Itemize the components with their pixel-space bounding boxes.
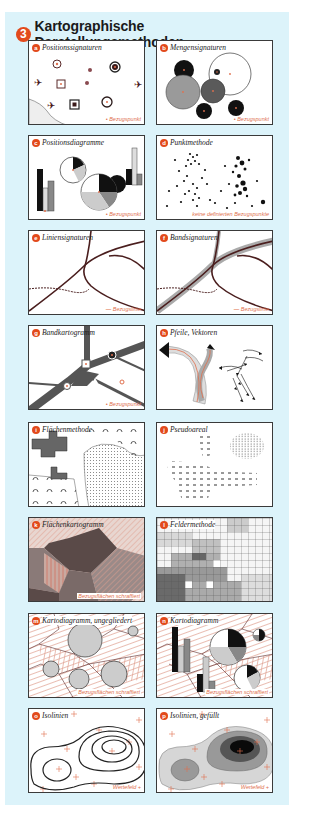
panel-j-title: Pseudoareal — [170, 425, 208, 434]
panel-i-title: Flächenmethode — [42, 425, 92, 434]
panel-j-label: jPseudoareal — [160, 425, 208, 434]
panel-j-badge: j — [160, 426, 168, 434]
panel-l-feldermethode: lFeldermethode — [156, 517, 273, 602]
svg-text:✈: ✈ — [47, 100, 55, 111]
pfeile-vektoren-map — [157, 326, 273, 410]
panel-m-title: Kartodiagramm, ungegliedert — [42, 616, 132, 625]
punktmethode-map — [157, 136, 273, 220]
panel-m-kartodiagramm-ungegliedert: mKartodiagramm, ungegliedert Bezugsfläch… — [28, 613, 145, 698]
panel-c-title: Positionsdiagramme — [42, 138, 104, 147]
panel-l-title: Feldermethode — [170, 520, 215, 529]
kartodiagramm-ungegliedert-map — [29, 614, 145, 698]
panel-b-label: bMengensignaturen — [160, 43, 226, 52]
mengensignaturen-map — [157, 41, 273, 125]
panel-m-badge: m — [32, 617, 40, 625]
panel-l-badge: l — [160, 521, 168, 529]
panel-k-label: kFlächenkartogramm — [32, 520, 104, 529]
panel-a-positionssignaturen: ✈ ✈ ✈ aPositionssignaturen • Bezugspunkt — [28, 40, 145, 125]
panel-b-badge: b — [160, 44, 168, 52]
panel-f-title: Bandsignaturen — [170, 233, 218, 242]
panel-k-badge: k — [32, 521, 40, 529]
bandsignaturen-map — [157, 231, 273, 315]
panel-o-label: oIsolinien — [32, 711, 68, 720]
panel-o-title: Isolinien — [42, 711, 68, 720]
panel-n-caption: Bezugsflächen schraffiert — [205, 689, 269, 695]
panel-h-title: Pfeile, Vektoren — [170, 328, 217, 337]
panel-c-caption: • Bezugspunkt — [106, 211, 141, 217]
panel-i-label: iFlächenmethode — [32, 425, 92, 434]
panel-d-caption: keine definierten Bezugspunkte — [192, 211, 269, 217]
panel-k-caption: Bezugsflächen schraffiert — [77, 593, 141, 599]
panel-n-badge: n — [160, 617, 168, 625]
panel-i-flaechenmethode: iFlächenmethode — [28, 422, 145, 507]
panel-p-caption: Wertefeld + — [241, 784, 269, 790]
panel-k-flaechenkartogramm: kFlächenkartogramm Bezugsflächen schraff… — [28, 517, 145, 602]
panel-a-caption: • Bezugspunkt — [106, 116, 141, 122]
panel-e-title: Liniensignaturen — [42, 233, 93, 242]
pseudoareal-map — [157, 423, 273, 507]
panel-h-badge: h — [160, 329, 168, 337]
panel-a-label: aPositionssignaturen — [32, 43, 102, 52]
panel-n-label: nKartodiagramm — [160, 616, 218, 625]
panel-f-caption: — Bezugslinie — [234, 306, 269, 312]
panel-o-isolinien: oIsolinien Wertefeld + — [28, 708, 145, 793]
flaechenmethode-map — [29, 423, 145, 507]
panel-i-badge: i — [32, 426, 40, 434]
panel-n-kartodiagramm: nKartodiagramm Bezugsflächen schraffiert — [156, 613, 273, 698]
panel-e-caption: — Bezugslinie — [106, 306, 141, 312]
svg-text:✈: ✈ — [34, 77, 42, 88]
positionssignaturen-map: ✈ ✈ ✈ — [29, 41, 145, 125]
panel-c-positionsdiagramme: cPositionsdiagramme • Bezugspunkt — [28, 135, 145, 220]
panel-b-mengensignaturen: bMengensignaturen • Bezugspunkt — [156, 40, 273, 125]
panel-e-label: eLiniensignaturen — [32, 233, 93, 242]
isolinien-map — [29, 709, 145, 793]
panel-e-liniensignaturen: eLiniensignaturen — Bezugslinie — [28, 230, 145, 315]
panel-m-label: mKartodiagramm, ungegliedert — [32, 616, 132, 625]
flaechenkartogramm-map — [29, 518, 145, 602]
bandkartogramm-map — [29, 326, 145, 410]
panel-n-title: Kartodiagramm — [170, 616, 218, 625]
panel-d-punktmethode: dPunktmethode keine definierten Bezugspu… — [156, 135, 273, 220]
panel-g-badge: g — [32, 329, 40, 337]
panel-f-badge: f — [160, 234, 168, 242]
panel-g-title: Bandkartogramm — [42, 328, 95, 337]
panel-a-title: Positionssignaturen — [42, 43, 102, 52]
svg-text:✈: ✈ — [134, 79, 142, 90]
panel-p-title: Isolinien, gefüllt — [170, 711, 219, 720]
panel-a-badge: a — [32, 44, 40, 52]
panel-p-isolinien-gefuellt: pIsolinien, gefüllt Wertefeld + — [156, 708, 273, 793]
panel-e-badge: e — [32, 234, 40, 242]
panel-h-pfeile-vektoren: hPfeile, Vektoren — [156, 325, 273, 410]
panel-o-caption: Wertefeld + — [113, 784, 141, 790]
panel-p-label: pIsolinien, gefüllt — [160, 711, 219, 720]
positionsdiagramme-map — [29, 136, 145, 220]
isolinien-gefuellt-map — [157, 709, 273, 793]
panel-d-title: Punktmethode — [170, 138, 213, 147]
panel-g-label: gBandkartogramm — [32, 328, 95, 337]
panel-f-bandsignaturen: fBandsignaturen — Bezugslinie — [156, 230, 273, 315]
panel-k-title: Flächenkartogramm — [42, 520, 104, 529]
panel-c-badge: c — [32, 139, 40, 147]
panel-d-label: dPunktmethode — [160, 138, 213, 147]
panel-o-badge: o — [32, 712, 40, 720]
kartodiagramm-map — [157, 614, 273, 698]
panel-m-caption: Bezugsflächen schraffiert — [77, 689, 141, 695]
panel-h-label: hPfeile, Vektoren — [160, 328, 217, 337]
panel-d-badge: d — [160, 139, 168, 147]
liniensignaturen-map — [29, 231, 145, 315]
panel-j-pseudoareal: jPseudoareal — [156, 422, 273, 507]
panel-b-caption: • Bezugspunkt — [234, 116, 269, 122]
panel-g-caption: • Bezugspunkt — [106, 401, 141, 407]
feldermethode-map — [157, 518, 273, 602]
panel-b-title: Mengensignaturen — [170, 43, 226, 52]
panel-p-badge: p — [160, 712, 168, 720]
panel-f-label: fBandsignaturen — [160, 233, 218, 242]
panel-g-bandkartogramm: gBandkartogramm • Bezugspunkt — [28, 325, 145, 410]
panel-c-label: cPositionsdiagramme — [32, 138, 104, 147]
panel-l-label: lFeldermethode — [160, 520, 215, 529]
